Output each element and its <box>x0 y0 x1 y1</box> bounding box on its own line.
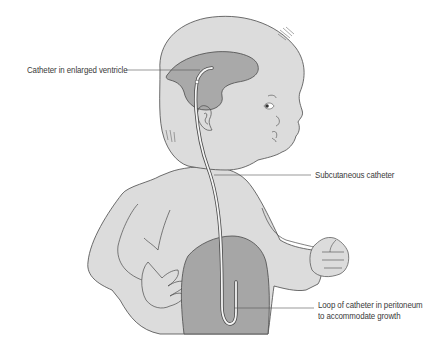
label-loop-line1: Loop of catheter in peritoneum <box>318 300 422 311</box>
right-fist <box>310 237 349 276</box>
catheter-valve <box>195 80 199 84</box>
head <box>160 16 304 170</box>
label-catheter-ventricle: Catheter in enlarged ventricle <box>27 65 128 76</box>
label-loop-line2: to accommodate growth <box>318 311 422 322</box>
shunt-diagram: Catheter in enlarged ventricle Subcutane… <box>0 0 428 344</box>
label-loop-peritoneum: Loop of catheter in peritoneum to accomm… <box>318 300 422 322</box>
label-subcutaneous-catheter: Subcutaneous catheter <box>315 170 394 181</box>
pupil <box>265 104 269 108</box>
